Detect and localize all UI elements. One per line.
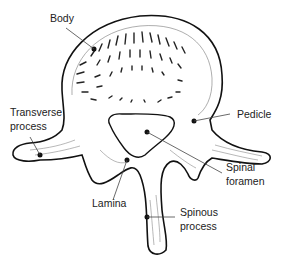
label-spinal-foramen-1: Spinal <box>226 161 255 173</box>
label-transverse-process-2: process <box>10 120 47 132</box>
label-spinous-process-2: process <box>180 220 217 232</box>
label-spinous-process-1: Spinous <box>180 206 218 218</box>
label-transverse-process-1: Transverse <box>10 106 62 118</box>
label-pedicle: Pedicle <box>237 108 271 120</box>
label-body: Body <box>50 12 74 24</box>
label-spinal-foramen-2: foramen <box>226 175 265 187</box>
label-lamina: Lamina <box>92 197 126 209</box>
